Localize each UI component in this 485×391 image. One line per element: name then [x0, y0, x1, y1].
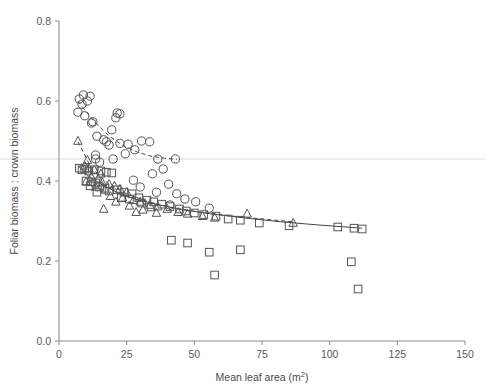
data-point-circle [129, 176, 137, 184]
data-point-square [348, 258, 356, 266]
y-tick-label: 0.4 [36, 175, 51, 187]
x-tick-label: 0 [56, 348, 62, 360]
x-tick-label: 125 [389, 348, 407, 360]
x-tick-label: 50 [188, 348, 200, 360]
data-point-square [237, 246, 245, 254]
y-tick-label: 0.2 [36, 255, 51, 267]
data-point-square [168, 236, 176, 244]
x-tick-label: 100 [321, 348, 339, 360]
data-point-triangle [99, 204, 107, 212]
data-point-circle [124, 140, 132, 148]
data-point-circle [81, 112, 89, 120]
figure-container: 0.00.20.40.60.80255075100125150Mean leaf… [0, 0, 485, 391]
y-tick-label: 0.6 [36, 95, 51, 107]
data-point-square [184, 239, 192, 247]
data-point-circle [148, 170, 156, 178]
x-tick-label: 150 [456, 348, 474, 360]
data-point-circle [136, 183, 144, 191]
data-point-circle [181, 195, 189, 203]
data-point-square [354, 285, 362, 293]
scatter-plot: 0.00.20.40.60.80255075100125150Mean leaf… [0, 0, 485, 391]
data-point-circle [100, 136, 108, 144]
data-point-circle [165, 180, 173, 188]
data-point-square [358, 225, 366, 233]
data-point-square [211, 271, 219, 279]
data-point-triangle [74, 136, 82, 144]
data-point-circle [146, 138, 154, 146]
data-point-circle [137, 137, 145, 145]
x-axis-title: Mean leaf area (m2) [216, 370, 309, 384]
data-point-square [255, 219, 263, 227]
data-point-circle [159, 165, 167, 173]
data-point-circle [152, 188, 160, 196]
data-point-square [205, 248, 213, 256]
data-point-circle [116, 139, 124, 147]
x-tick-label: 25 [121, 348, 133, 360]
data-point-circle [108, 126, 116, 134]
y-axis-title: Foliar biomass : crown biomass [8, 107, 20, 254]
x-tick-label: 75 [256, 348, 268, 360]
superscript-2: 2 [301, 370, 305, 379]
data-point-circle [121, 150, 129, 158]
y-tick-label: 0.8 [36, 15, 51, 27]
data-point-square [191, 209, 199, 217]
y-tick-label: 0.0 [36, 335, 51, 347]
data-point-circle [192, 198, 200, 206]
data-point-circle [173, 190, 181, 198]
